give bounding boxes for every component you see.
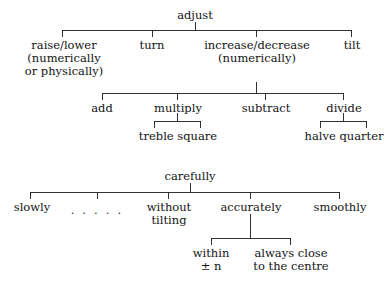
node-ellipsis-placeholder: . . . . . [71, 203, 124, 217]
node-divide-label: divide [326, 102, 361, 115]
node-increase-decrease[interactable]: increase/decrease (numerically) [204, 39, 310, 65]
node-treble-square[interactable]: treble square [139, 130, 217, 143]
node-smoothly-label: smoothly [314, 201, 367, 214]
node-always-close-to-the-centre[interactable]: always close to the centre [253, 247, 328, 273]
node-accurately-label: accurately [220, 201, 281, 214]
node-multiply[interactable]: multiply [154, 102, 202, 115]
node-within-n-label-line2: ± n [193, 260, 230, 273]
node-tilt[interactable]: tilt [344, 39, 361, 52]
node-subtract[interactable]: subtract [242, 102, 291, 115]
node-raise-lower-qualifier-line2: or physically) [25, 65, 104, 78]
node-turn[interactable]: turn [140, 39, 165, 52]
node-subtract-label: subtract [242, 102, 291, 115]
node-increase-decrease-qualifier: (numerically) [204, 52, 310, 65]
node-adjust[interactable]: adjust [177, 9, 213, 22]
node-without-tilting-label-line2: tilting [147, 214, 192, 227]
node-halve-quarter-label: halve quarter [305, 130, 384, 143]
node-slowly[interactable]: slowly [14, 201, 51, 214]
node-increase-decrease-label: increase/decrease [204, 39, 310, 52]
semantic-tree-diagram: adjust raise/lower (numerically or physi… [0, 0, 390, 289]
node-halve-quarter[interactable]: halve quarter [305, 130, 384, 143]
node-smoothly[interactable]: smoothly [314, 201, 367, 214]
node-multiply-label: multiply [154, 102, 202, 115]
node-raise-lower-label: raise/lower [25, 39, 104, 52]
node-within-n[interactable]: within ± n [193, 247, 230, 273]
node-slowly-label: slowly [14, 201, 51, 214]
node-add-label: add [91, 102, 113, 115]
node-adjust-label: adjust [177, 9, 213, 22]
node-without-tilting[interactable]: without tilting [147, 201, 192, 227]
node-treble-square-label: treble square [139, 130, 217, 143]
node-add[interactable]: add [91, 102, 113, 115]
node-divide[interactable]: divide [326, 102, 361, 115]
node-raise-lower-qualifier-line1: (numerically [25, 52, 104, 65]
node-always-close-label-line2: to the centre [253, 260, 328, 273]
node-without-tilting-label-line1: without [147, 201, 192, 214]
node-within-n-label-line1: within [193, 247, 230, 260]
node-raise-lower[interactable]: raise/lower (numerically or physically) [25, 39, 104, 78]
node-carefully[interactable]: carefully [164, 170, 215, 183]
node-tilt-label: tilt [344, 39, 361, 52]
node-carefully-label: carefully [164, 170, 215, 183]
node-turn-label: turn [140, 39, 165, 52]
node-always-close-label-line1: always close [253, 247, 328, 260]
node-accurately[interactable]: accurately [220, 201, 281, 214]
